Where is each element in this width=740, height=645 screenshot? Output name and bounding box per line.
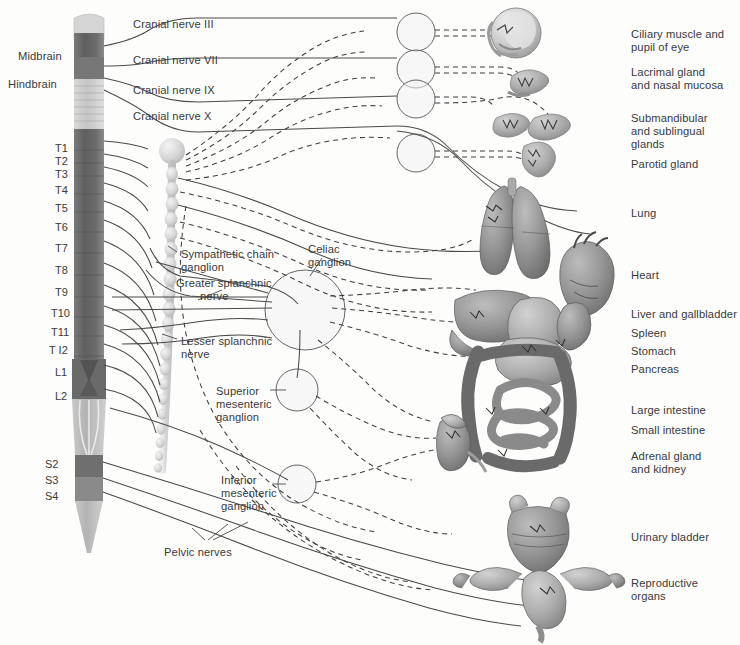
cranial-nerve-3: Cranial nerve III — [133, 18, 214, 31]
organ-pancreas-line-1: Pancreas — [631, 363, 679, 376]
organ-salivary-glands — [493, 113, 571, 140]
superior-mesenteric-ganglion-line-2: mesenteric — [216, 398, 272, 411]
organ-lung-line-1: Lung — [631, 207, 656, 220]
organ-lung: Lung — [631, 207, 656, 220]
organ-reproductive-organs: Reproductiveorgans — [631, 577, 698, 603]
diagram-svg — [0, 0, 740, 645]
segment-t9: T9 — [55, 287, 68, 298]
organ-urinary-bladder: Urinary bladder — [631, 531, 709, 544]
celiac-ganglion-line-2: ganglion — [308, 256, 351, 269]
celiac-ganglion-line-1: Celiac — [308, 243, 351, 256]
organ-reproductive-organs-line-1: Reproductive — [631, 577, 698, 590]
organ-large-intestine-line-1: Large intestine — [631, 404, 706, 417]
superior-mesenteric-ganglion-line-3: ganglion — [216, 411, 272, 424]
ganglion-circle-ciliary — [397, 13, 435, 51]
greater-splanchnic-nerve-line-2: nerve — [176, 290, 272, 303]
organ-stomach-line-1: Stomach — [631, 345, 676, 358]
organ-liver-gallbladder-line-1: Liver and gallbladder — [631, 308, 737, 321]
organ-adrenal-kidney: Adrenal glandand kidney — [631, 450, 701, 476]
organ-adrenal-kidney-line-1: Adrenal gland — [631, 450, 701, 463]
segment-t5: T5 — [55, 203, 68, 214]
organ-submandibular-sublingual-line-2: and sublingual — [631, 125, 708, 138]
segment-t4: T4 — [55, 185, 68, 196]
organ-spleen-line-1: Spleen — [631, 327, 666, 340]
organ-large-intestine: Large intestine — [631, 404, 706, 417]
cranial-nerve-7: Cranial nerve VII — [133, 54, 218, 67]
segment-t3: T3 — [55, 169, 68, 180]
cranial-nerve-3-line-1: Cranial nerve III — [133, 18, 214, 31]
organ-lacrimal-nasal-line-2: and nasal mucosa — [631, 79, 723, 92]
greater-splanchnic-nerve-line-1: Greater splanchnic — [176, 277, 272, 290]
hindbrain-line-1: Hindbrain — [8, 78, 57, 91]
cranial-nerve-10: Cranial nerve X — [133, 110, 212, 123]
figure-canvas: MidbrainHindbrainCranial nerve IIICrania… — [0, 0, 740, 645]
organ-heart-art — [560, 232, 615, 316]
organ-submandibular-sublingual: Submandibularand sublingualglands — [631, 112, 708, 152]
segment-s4: S4 — [45, 491, 58, 502]
organ-lacrimal-gland — [508, 70, 549, 96]
cranial-nerve-10-line-1: Cranial nerve X — [133, 110, 212, 123]
superior-mesenteric-ganglion-line-1: Superior — [216, 385, 272, 398]
organ-lacrimal-nasal-line-1: Lacrimal gland — [631, 66, 723, 79]
sympathetic-chain-ganglion: Sympathetic chainganglion — [181, 248, 274, 274]
cranial-nerve-7-line-1: Cranial nerve VII — [133, 54, 218, 67]
segment-t7: T7 — [55, 243, 68, 254]
midbrain: Midbrain — [18, 50, 62, 63]
sympathetic-chain-ganglion-line-1: Sympathetic chain — [181, 248, 274, 261]
organ-spleen: Spleen — [631, 327, 666, 340]
segment-t1: T1 — [55, 143, 68, 154]
lesser-splanchnic-nerve-line-2: nerve — [181, 348, 272, 361]
organ-lacrimal-nasal: Lacrimal glandand nasal mucosa — [631, 66, 723, 92]
organ-pancreas: Pancreas — [631, 363, 679, 376]
sympathetic-chain-ganglion-line-2: ganglion — [181, 261, 274, 274]
inferior-mesenteric-ganglion: Inferiormesentericganglion — [221, 474, 277, 514]
pelvic-nerves-line-1: Pelvic nerves — [164, 546, 232, 559]
organ-stomach: Stomach — [631, 345, 676, 358]
organ-urinary-bladder-line-1: Urinary bladder — [631, 531, 709, 544]
organ-small-intestine: Small intestine — [631, 424, 705, 437]
midbrain-line-1: Midbrain — [18, 50, 62, 63]
organ-parotid-gland: Parotid gland — [631, 158, 698, 171]
lesser-splanchnic-nerve: Lesser splanchnicnerve — [181, 335, 272, 361]
organ-eye — [489, 8, 542, 58]
segment-l1: L1 — [55, 367, 67, 378]
segment-l2: L2 — [55, 391, 67, 402]
inferior-mesenteric-ganglion-line-1: Inferior — [221, 474, 277, 487]
organ-submandibular-sublingual-line-1: Submandibular — [631, 112, 708, 125]
segment-t12: T I2 — [49, 345, 68, 356]
organ-illustrations — [436, 8, 625, 642]
segment-t10: T10 — [51, 308, 70, 319]
organ-abdominal-viscera — [450, 290, 591, 466]
organ-ciliary-muscle-pupil-line-2: pupil of eye — [631, 41, 724, 54]
celiac-ganglion: Celiacganglion — [308, 243, 351, 269]
organ-lungs — [480, 178, 550, 279]
organ-parotid-gland-line-1: Parotid gland — [631, 158, 698, 171]
segment-t6: T6 — [55, 222, 68, 233]
ganglion-circle-submandibular — [397, 80, 435, 118]
organ-uterus — [453, 567, 625, 642]
organ-liver-gallbladder: Liver and gallbladder — [631, 308, 737, 321]
organ-heart-line-1: Heart — [631, 269, 659, 282]
organ-submandibular-sublingual-line-3: glands — [631, 138, 708, 151]
organ-parotid — [522, 142, 556, 177]
organ-heart: Heart — [631, 269, 659, 282]
superior-mesenteric-ganglion: Superiormesentericganglion — [216, 385, 272, 425]
pelvic-nerves: Pelvic nerves — [164, 546, 232, 559]
greater-splanchnic-nerve: Greater splanchnicnerve — [176, 277, 272, 303]
lesser-splanchnic-nerve-line-1: Lesser splanchnic — [181, 335, 272, 348]
organ-ciliary-muscle-pupil-line-1: Ciliary muscle and — [631, 28, 724, 41]
ganglion-circle-otic — [397, 134, 435, 172]
segment-t8: T8 — [55, 265, 68, 276]
segment-t11: T11 — [51, 327, 69, 338]
hindbrain: Hindbrain — [8, 78, 57, 91]
cranial-nerve-9-line-1: Cranial nerve IX — [133, 84, 215, 97]
inferior-mesenteric-ganglion-line-3: ganglion — [221, 500, 277, 513]
organ-adrenal-kidney-line-2: and kidney — [631, 463, 701, 476]
organ-ciliary-muscle-pupil: Ciliary muscle andpupil of eye — [631, 28, 724, 54]
spinal-cord-illustration — [72, 14, 106, 553]
inferior-mesenteric-ganglion-line-2: mesenteric — [221, 487, 277, 500]
segment-t2: T2 — [55, 156, 68, 167]
ganglion-circle-celiac — [265, 270, 345, 350]
organ-reproductive-organs-line-2: organs — [631, 590, 698, 603]
cranial-nerve-9: Cranial nerve IX — [133, 84, 215, 97]
